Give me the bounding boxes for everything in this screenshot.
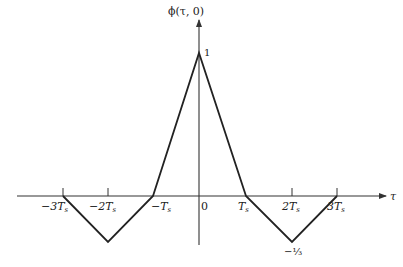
x-axis-label: τ	[390, 191, 396, 202]
x-axis-label-text: τ	[390, 190, 396, 203]
tick-sub: s	[113, 206, 117, 214]
tick-label-minus-2ts: −2Ts	[89, 201, 116, 214]
tick-sub: s	[245, 206, 249, 214]
tick-main: −3T	[41, 200, 65, 213]
tick-sub: s	[296, 206, 300, 214]
tick-sub: s	[341, 206, 345, 214]
tick-main: −2T	[89, 200, 113, 213]
tick-label-3ts: 3Ts	[327, 201, 345, 214]
tick-sub: s	[168, 206, 172, 214]
tick-main: 3T	[327, 200, 341, 213]
tick-label-minus-ts: −Ts	[151, 201, 171, 214]
tick-main: −T	[151, 200, 168, 213]
tick-main: 2T	[282, 200, 296, 213]
x-ticks	[63, 188, 337, 196]
tick-sub: s	[65, 206, 69, 214]
chart-canvas	[0, 0, 403, 267]
y-axis-label: ϕ(τ, 0)	[168, 6, 204, 17]
peak-value-text: 1	[204, 47, 210, 58]
y-axis-label-text: ϕ(τ, 0)	[168, 5, 204, 18]
tick-main: 0	[201, 200, 208, 213]
peak-value-label: 1	[204, 48, 210, 58]
tick-label-zero: 0	[201, 201, 208, 212]
valley-value-text: −⅓	[284, 246, 302, 257]
valley-value-label: −⅓	[284, 247, 302, 257]
tick-label-ts: Ts	[238, 201, 249, 214]
tick-label-minus-3ts: −3Ts	[41, 201, 68, 214]
tick-label-2ts: 2Ts	[282, 201, 300, 214]
